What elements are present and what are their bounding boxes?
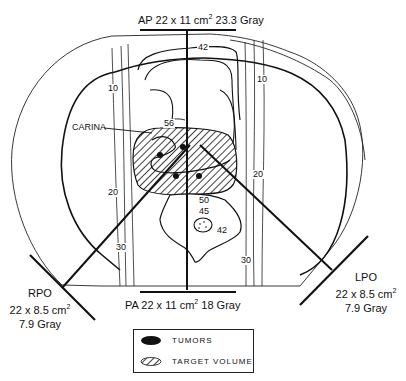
isodose-42-top <box>138 47 240 120</box>
isodose-label-10-left: 10 <box>107 84 119 93</box>
carina-label: CARINA <box>72 123 106 132</box>
carina-pointer <box>104 128 152 133</box>
target-volume <box>133 128 237 195</box>
ap-size: 22 x 11 cm <box>156 14 209 26</box>
pa-beam-label: PA 22 x 11 cm2 18 Gray <box>125 298 240 311</box>
spinal-cord <box>194 218 212 232</box>
legend-item-target-volume: TARGET VOLUME <box>134 357 253 366</box>
isodose-label-42-spine: 42 <box>216 226 228 235</box>
rpo-beam-label: RPO 22 x 8.5 cm2 7.9 Gray <box>4 286 76 331</box>
isodose-label-20-right: 20 <box>252 170 264 179</box>
rpo-size-sup: 2 <box>66 303 70 310</box>
rpo-size-line: 22 x 8.5 cm2 <box>4 300 76 317</box>
legend-label-target-volume: TARGET VOLUME <box>172 357 253 366</box>
tumor-swatch-icon <box>140 336 162 345</box>
isodose-label-30-right: 30 <box>240 256 252 265</box>
tumor <box>173 173 179 179</box>
isodose-label-30-left: 30 <box>115 243 127 252</box>
isodose-label-56: 56 <box>163 119 175 128</box>
legend: TUMORS TARGET VOLUME <box>133 329 254 373</box>
lpo-size: 22 x 8.5 cm <box>336 288 393 300</box>
isodose-label-50: 50 <box>198 196 210 205</box>
legend-item-tumors: TUMORS <box>134 336 213 345</box>
legend-label-tumors: TUMORS <box>172 336 213 345</box>
tumor <box>196 173 202 179</box>
isodose-label-10-right: 10 <box>256 75 268 84</box>
lpo-dose: 7.9 Gray <box>326 301 406 315</box>
lpo-size-line: 22 x 8.5 cm2 <box>326 284 406 301</box>
isodose-label-45: 45 <box>198 207 210 216</box>
isodose-label-42-top: 42 <box>197 43 209 52</box>
ap-dose: 23.3 Gray <box>216 14 264 26</box>
pa-size: 22 x 11 cm <box>141 299 194 311</box>
ap-size-sup: 2 <box>209 13 213 20</box>
isodose-10 <box>61 72 120 270</box>
lpo-size-sup: 2 <box>392 287 396 294</box>
tumor <box>157 152 163 158</box>
ap-name: AP <box>138 14 152 26</box>
isodose-label-20-left: 20 <box>107 188 119 197</box>
target-volume-swatch-icon <box>140 357 162 366</box>
lpo-name: LPO <box>326 270 406 284</box>
rpo-name: RPO <box>4 286 76 300</box>
rpo-dose: 7.9 Gray <box>4 317 76 331</box>
pa-dose: 18 Gray <box>201 299 240 311</box>
ap-beam-label: AP 22 x 11 cm2 23.3 Gray <box>138 13 264 26</box>
lpo-beam-label: LPO 22 x 8.5 cm2 7.9 Gray <box>326 270 406 315</box>
rpo-size: 22 x 8.5 cm <box>10 304 67 316</box>
pa-size-sup: 2 <box>194 298 198 305</box>
pa-name: PA <box>125 299 138 311</box>
